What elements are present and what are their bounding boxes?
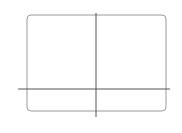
plot-area: [0, 0, 182, 133]
